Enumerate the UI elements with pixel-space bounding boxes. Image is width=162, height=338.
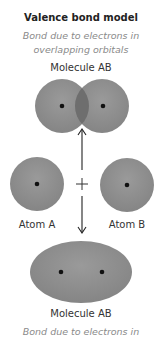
atom-b-label: Atom B — [90, 219, 162, 230]
atom-a-label: Atom A — [0, 219, 74, 230]
down-arrow-icon — [78, 196, 86, 233]
overlapping-orbitals — [35, 79, 129, 133]
bottom-molecule-label: Molecule AB — [0, 308, 162, 319]
nucleus-b-dot — [101, 104, 106, 109]
up-arrow-icon — [78, 129, 86, 170]
molecular-orbital — [30, 241, 132, 303]
bottom-caption: Bond due to electrons in — [0, 326, 162, 337]
plus-icon — [76, 178, 88, 190]
bonding-diagram — [0, 0, 162, 338]
nucleus-a-dot — [60, 104, 65, 109]
